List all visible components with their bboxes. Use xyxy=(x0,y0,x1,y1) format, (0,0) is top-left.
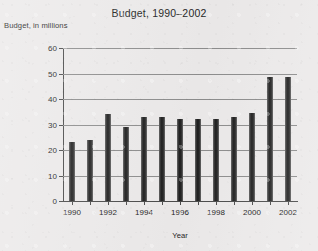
bar-1993 xyxy=(123,127,129,201)
x-tick-label-1998: 1998 xyxy=(207,208,225,217)
bar-2000 xyxy=(249,113,255,201)
chart-title: Budget, 1990–2002 xyxy=(0,7,318,19)
x-axis-label: Year xyxy=(63,231,297,240)
x-tick-label-1996: 1996 xyxy=(171,208,189,217)
bar-1997 xyxy=(195,119,201,201)
plot-area: 0102030405060 19901992199419961998200020… xyxy=(63,48,297,201)
y-tick-60 xyxy=(59,48,63,49)
bar-1990 xyxy=(69,142,75,201)
bar-1994 xyxy=(141,117,147,201)
y-tick-label-10: 10 xyxy=(48,171,57,180)
x-tick-label-1992: 1992 xyxy=(99,208,117,217)
chart-figure: Budget, 1990–2002 Budget, in millions 01… xyxy=(0,0,318,251)
x-tick-2000 xyxy=(252,201,253,205)
x-tick-1997 xyxy=(198,201,199,205)
gridline-60 xyxy=(63,48,297,49)
bar-1991 xyxy=(87,140,93,201)
x-tick-2001 xyxy=(270,201,271,205)
x-tick-1993 xyxy=(126,201,127,205)
bar-1999 xyxy=(231,117,237,201)
bar-2002 xyxy=(285,77,291,201)
x-tick-1994 xyxy=(144,201,145,205)
gridline-40 xyxy=(63,99,297,100)
y-axis-label: Budget, in millions xyxy=(4,21,68,30)
x-tick-label-2000: 2000 xyxy=(243,208,261,217)
y-tick-label-50: 50 xyxy=(48,69,57,78)
bar-1996 xyxy=(177,119,183,201)
x-tick-1996 xyxy=(180,201,181,205)
bar-1995 xyxy=(159,117,165,201)
x-tick-1991 xyxy=(90,201,91,205)
x-tick-label-1990: 1990 xyxy=(63,208,81,217)
y-tick-20 xyxy=(59,150,63,151)
y-tick-10 xyxy=(59,176,63,177)
x-tick-label-2002: 2002 xyxy=(279,208,297,217)
x-tick-2002 xyxy=(288,201,289,205)
y-tick-30 xyxy=(59,125,63,126)
y-tick-50 xyxy=(59,74,63,75)
bar-1998 xyxy=(213,119,219,201)
x-tick-1995 xyxy=(162,201,163,205)
x-tick-1992 xyxy=(108,201,109,205)
y-tick-label-40: 40 xyxy=(48,95,57,104)
y-tick-label-60: 60 xyxy=(48,44,57,53)
y-tick-label-20: 20 xyxy=(48,146,57,155)
x-tick-1999 xyxy=(234,201,235,205)
gridline-50 xyxy=(63,74,297,75)
x-tick-1990 xyxy=(72,201,73,205)
bar-1992 xyxy=(105,114,111,201)
y-tick-0 xyxy=(59,201,63,202)
y-tick-label-30: 30 xyxy=(48,120,57,129)
y-tick-label-0: 0 xyxy=(53,197,57,206)
y-tick-40 xyxy=(59,99,63,100)
x-tick-label-1994: 1994 xyxy=(135,208,153,217)
x-tick-1998 xyxy=(216,201,217,205)
bar-2001 xyxy=(267,77,273,201)
